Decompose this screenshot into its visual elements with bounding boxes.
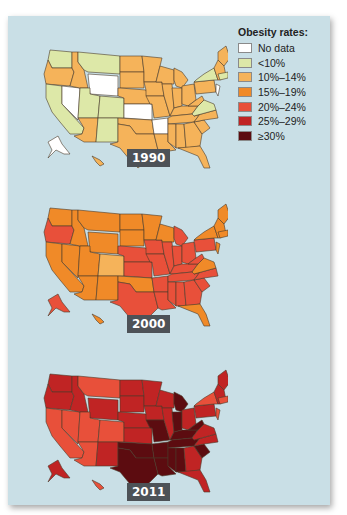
state-nm: [96, 118, 118, 142]
legend-label: 15%–19%: [258, 86, 306, 98]
state-fl: [178, 146, 210, 168]
legend-item-15-19: 15%–19%: [238, 85, 338, 100]
legend-label: No data: [258, 42, 295, 54]
state-wy: [88, 398, 118, 420]
legend-item-under-10: <10%: [238, 56, 338, 71]
state-fl: [178, 470, 210, 492]
state-pa: [194, 238, 216, 252]
state-mi: [174, 68, 188, 88]
state-mi: [174, 226, 188, 246]
state-co: [98, 96, 124, 118]
state-ks: [124, 262, 152, 278]
year-label-2011: 2011: [127, 483, 170, 501]
state-wa: [48, 208, 72, 226]
legend-label: 20%–24%: [258, 101, 306, 113]
state-wa: [48, 374, 72, 392]
legend-label: ≥30%: [258, 130, 285, 142]
figure-panel: Obesity rates: No data <10% 10%–14% 15%–…: [8, 16, 330, 505]
legend-title: Obesity rates:: [238, 26, 338, 38]
state-mi: [174, 392, 188, 412]
swatch-15-19: [238, 87, 252, 97]
state-nj: [216, 408, 220, 420]
legend-item-30-plus: ≥30%: [238, 129, 338, 144]
state-co: [98, 420, 124, 442]
us-map-2000-svg: [22, 188, 228, 328]
legend-item-10-14: 10%–14%: [238, 70, 338, 85]
state-nd: [120, 56, 144, 72]
state-in: [172, 88, 182, 108]
us-map-2000: [22, 188, 228, 328]
state-ar: [152, 118, 168, 134]
legend-item-25-29: 25%–29%: [238, 114, 338, 129]
swatch-20-24: [238, 102, 252, 112]
us-map-2011-svg: [22, 354, 228, 494]
state-hi: [92, 314, 104, 324]
us-map-2011: [22, 354, 228, 494]
swatch-25-29: [238, 116, 252, 126]
swatch-30-plus: [238, 131, 252, 141]
state-pa: [194, 80, 216, 94]
year-label-2000: 2000: [127, 315, 170, 333]
state-ak: [48, 460, 70, 482]
legend: Obesity rates: No data <10% 10%–14% 15%–…: [238, 26, 338, 143]
legend-label: <10%: [258, 57, 285, 69]
state-ia: [144, 240, 164, 254]
state-hi: [92, 480, 104, 490]
state-ar: [152, 276, 168, 292]
state-co: [98, 254, 124, 276]
state-nm: [96, 442, 118, 466]
state-wy: [88, 74, 118, 96]
state-in: [172, 412, 182, 432]
legend-label: 25%–29%: [258, 115, 306, 127]
state-fl: [178, 304, 210, 326]
state-wa: [48, 50, 72, 68]
state-pa: [194, 404, 216, 418]
state-wy: [88, 232, 118, 254]
state-nj: [216, 242, 220, 254]
legend-label: 10%–14%: [258, 71, 306, 83]
state-ia: [144, 82, 164, 96]
state-sd: [120, 230, 144, 246]
state-nj: [216, 84, 220, 96]
us-map-1990-svg: [22, 30, 228, 170]
state-nm: [96, 276, 118, 300]
state-ks: [124, 104, 152, 120]
swatch-10-14: [238, 72, 252, 82]
state-ak: [48, 136, 70, 158]
state-ar: [152, 442, 168, 458]
legend-item-no-data: No data: [238, 41, 338, 56]
legend-item-20-24: 20%–24%: [238, 99, 338, 114]
us-map-1990: [22, 30, 228, 170]
state-ia: [144, 406, 164, 420]
state-in: [172, 246, 182, 266]
state-ak: [48, 294, 70, 316]
state-sd: [120, 396, 144, 412]
year-label-1990: 1990: [127, 149, 170, 167]
state-sd: [120, 72, 144, 88]
swatch-no-data: [238, 43, 252, 53]
state-hi: [92, 156, 104, 166]
state-ks: [124, 428, 152, 444]
state-nd: [120, 214, 144, 230]
state-nd: [120, 380, 144, 396]
swatch-under-10: [238, 58, 252, 68]
